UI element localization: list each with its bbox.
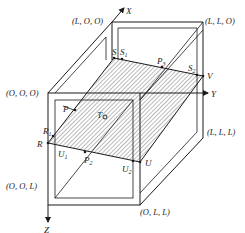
label-U1: U1 [58,149,68,160]
label-S2: S2 [188,63,196,74]
label-P1: P [62,104,69,114]
corner-label-OLL: (O, L, L) [140,207,170,217]
corner-label-LOO: (L, O, O) [72,16,103,26]
x-axis-label: X [125,6,132,16]
corner-label-OOO: (O, O, O) [6,88,39,98]
y-axis-label: Y [211,89,217,99]
x-axis [112,8,124,22]
label-U: U [145,158,152,168]
label-S: S [112,47,117,57]
label-V: V [207,71,214,81]
corner-label-OOL: (O, O, L) [6,181,37,191]
label-R: R [36,139,43,149]
box-diagram: X Y Z (L, O, O) (L, L, O) (O, O, O) (L, … [0,0,245,233]
label-U2: U2 [122,164,132,175]
label-R1: R1 [42,126,52,137]
label-P3: P3 [156,56,166,67]
corner-label-LLL: (L, L, L) [207,127,236,137]
z-axis-label: Z [44,225,50,233]
label-P2: P2 [83,155,93,166]
label-S1: S1 [120,47,128,58]
corner-label-LLO: (L, L, O) [205,16,235,26]
